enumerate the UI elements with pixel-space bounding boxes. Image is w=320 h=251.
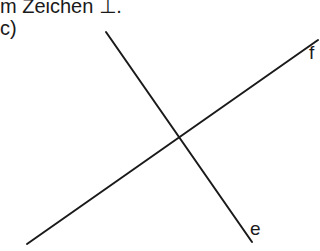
line-f	[27, 40, 318, 244]
line-label-e: e	[250, 219, 261, 239]
lines-diagram	[0, 0, 320, 251]
line-label-f: f	[309, 43, 314, 63]
